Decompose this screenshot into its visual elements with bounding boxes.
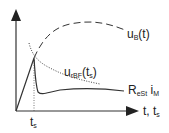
y-axis-arrow-icon xyxy=(11,9,21,21)
x-axis-arrow-icon xyxy=(126,106,139,116)
curve-uB xyxy=(34,22,125,58)
label-ReSt-iM: ReSt iM xyxy=(128,84,159,100)
x-tick-ts: ts xyxy=(30,116,37,132)
label-uB: uB(t) xyxy=(127,28,150,44)
x-axis-label: t, ts xyxy=(143,105,160,121)
diagram: uB(t) urBF(ts) ReSt iM t, ts ts xyxy=(0,0,169,133)
label-urBF: urBF(ts) xyxy=(64,66,97,82)
